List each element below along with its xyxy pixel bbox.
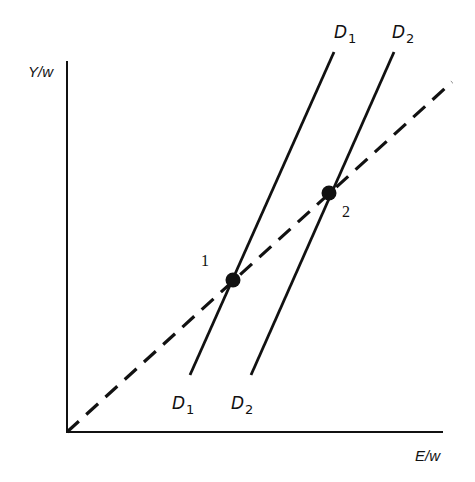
svg-text:D: D xyxy=(334,22,347,42)
d2-line xyxy=(251,52,394,375)
svg-text:2: 2 xyxy=(245,402,253,417)
diagram-canvas: Y/w E/w D 1 D 2 D 1 D 2 1 2 xyxy=(0,0,475,482)
d2-bottom-label: D 2 xyxy=(231,393,253,417)
svg-text:D: D xyxy=(231,393,244,413)
svg-text:D: D xyxy=(172,393,185,413)
svg-text:D: D xyxy=(392,22,405,42)
d1-bottom-label: D 1 xyxy=(172,393,194,417)
equilibrium-point-1 xyxy=(226,273,241,288)
y-axis-label: Y/w xyxy=(28,63,54,80)
d1-line xyxy=(190,52,334,375)
equilibrium-point-2 xyxy=(322,186,337,201)
svg-text:1: 1 xyxy=(186,402,194,417)
dashed-ray-line xyxy=(67,82,452,432)
point-2-label: 2 xyxy=(342,203,350,220)
point-1-label: 1 xyxy=(201,252,209,269)
svg-text:2: 2 xyxy=(406,31,414,46)
x-axis-label: E/w xyxy=(415,447,441,464)
d2-top-label: D 2 xyxy=(392,22,414,46)
d1-top-label: D 1 xyxy=(334,22,356,46)
svg-text:1: 1 xyxy=(348,31,356,46)
